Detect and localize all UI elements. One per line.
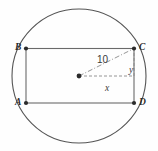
vertex-dot-d — [132, 101, 136, 105]
vertex-dot-a — [24, 101, 28, 105]
radius-measure-label: 10 — [97, 55, 108, 65]
half-width-label-x: x — [105, 84, 109, 94]
vertex-dot-c — [132, 46, 136, 50]
figure-canvas — [0, 0, 158, 151]
vertex-label-b: B — [15, 43, 21, 53]
center-point-dot — [77, 74, 82, 79]
vertex-label-a: A — [15, 98, 21, 108]
geometry-figure: B C A D 10 x y — [0, 0, 158, 151]
vertex-dot-b — [24, 46, 28, 50]
vertex-label-d: D — [139, 98, 146, 108]
vertex-label-c: C — [139, 43, 145, 53]
half-height-label-y: y — [129, 66, 133, 76]
